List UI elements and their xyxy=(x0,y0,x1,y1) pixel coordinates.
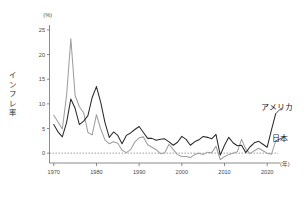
y-tick-label: 25 xyxy=(39,27,45,33)
y-axis-ticks: 0510152025 xyxy=(39,27,50,156)
inflation-rate-chart: 0510152025 197019801990200020102020 (%) … xyxy=(0,0,308,197)
x-tick-label: 1970 xyxy=(48,169,60,175)
x-tick-label: 2010 xyxy=(218,169,230,175)
x-axis-ticks: 197019801990200020102020 xyxy=(48,163,274,175)
y-axis-unit-label: (%) xyxy=(43,12,52,18)
series-label-japan: 日本 xyxy=(272,132,288,143)
y-tick-label: 10 xyxy=(39,101,45,107)
y-axis-title-char: ン xyxy=(4,80,20,90)
y-tick-label: 0 xyxy=(42,150,45,156)
y-axis-title-char: 率 xyxy=(4,108,20,118)
chart-canvas: 0510152025 197019801990200020102020 (%) … xyxy=(0,0,308,197)
series-line-japan xyxy=(54,39,276,160)
x-tick-label: 1990 xyxy=(133,169,145,175)
x-tick-label: 2020 xyxy=(261,169,273,175)
x-tick-label: 2000 xyxy=(176,169,188,175)
y-axis-title-char: フ xyxy=(4,89,20,99)
y-axis-title-char: イ xyxy=(4,70,20,80)
y-tick-label: 20 xyxy=(39,52,45,58)
y-tick-label: 15 xyxy=(39,76,45,82)
series-label-usa: アメリカ xyxy=(261,101,293,112)
y-tick-label: 5 xyxy=(42,126,45,132)
x-tick-label: 1980 xyxy=(90,169,102,175)
series-line-usa xyxy=(54,87,276,156)
y-axis-title: イ ン フ レ 率 xyxy=(4,70,20,118)
x-axis-unit-label: (年) xyxy=(280,160,290,168)
y-axis-title-char: レ xyxy=(4,99,20,109)
